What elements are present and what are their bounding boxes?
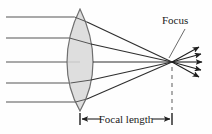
focus-label: Focus	[162, 14, 188, 26]
lens-ray-diagram: Focus Focal length	[0, 0, 212, 134]
diagram-canvas: Focus Focal length	[0, 0, 212, 134]
focal-length-label: Focal length	[99, 113, 154, 125]
